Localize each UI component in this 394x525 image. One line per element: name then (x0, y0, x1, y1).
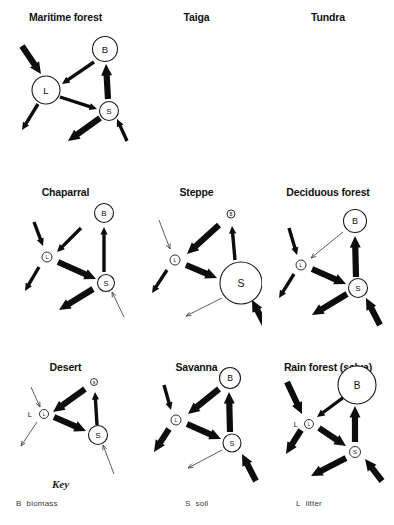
key-symbol-l: L (296, 499, 301, 508)
flow-soil_to_loss-thick (59, 286, 95, 310)
flow-litter_to_loss-medium (152, 269, 168, 293)
node-b-steppe[interactable]: B (227, 210, 235, 218)
flow-litter_to_soil-thick (317, 425, 346, 446)
node-s-chaparral[interactable]: S (98, 275, 115, 292)
flow-soil_to_biomass-medium (100, 227, 107, 272)
flow-litter_to_soil-thick (311, 266, 346, 284)
panel-diagram-tundra: BBLS (262, 0, 394, 175)
flow-soil_to_biomass-thick (350, 236, 361, 277)
flow-precip_to_litter-medium (32, 221, 43, 246)
node-label-b: B (93, 380, 96, 385)
flow-soil_to_loss-thick (312, 291, 349, 315)
node-label-b: B (352, 216, 358, 226)
flow-precip_to_litter-thin (159, 220, 170, 249)
flow-soil_to_biomass-medium (92, 392, 99, 425)
flow-arrows-deciduous-forest (279, 228, 383, 327)
panel-diagram-chaparral: BLS (0, 175, 131, 350)
biome-panel-maritime-forest[interactable]: Maritime forestBLS (0, 0, 131, 175)
node-outside-label-l: L (294, 420, 298, 429)
node-l-chaparral[interactable]: L (42, 252, 52, 262)
flow-biomass_to_litter-medium (62, 61, 95, 84)
flow-weathering_to_soil-medium (117, 119, 129, 142)
biome-panel-tundra[interactable]: TundraBBLS (262, 0, 394, 175)
flow-litter_to_loss-thick (286, 428, 304, 454)
node-s-maritime-forest[interactable]: S (100, 102, 119, 121)
node-label-s: S (229, 439, 234, 448)
node-b-deciduous-forest[interactable]: B (344, 210, 367, 233)
flow-soil_to_loss-thin (188, 450, 222, 468)
key-entry-soil: Ssoil (185, 499, 208, 508)
flow-soil_to_biomass-thick (224, 392, 235, 432)
node-l-maritime-forest[interactable]: L (32, 76, 60, 104)
node-label-b: B (354, 380, 361, 391)
node-b-rain-forest[interactable]: B (338, 366, 376, 404)
node-l-rain-forest[interactable]: LL (294, 420, 314, 429)
flow-soil_to_loss-thick (311, 455, 347, 476)
flow-litter_to_loss-medium (25, 266, 40, 291)
node-s-rain-forest[interactable]: S (350, 447, 361, 458)
node-label-l: L (300, 262, 303, 268)
flow-arrows-savanna (154, 385, 259, 483)
node-label-s: S (106, 107, 111, 116)
key-entry-biomass: Bbiomass (16, 499, 58, 508)
flow-soil_to_loss-thin (186, 298, 222, 316)
node-s-savanna[interactable]: S (223, 434, 241, 452)
flow-biomass_to_litter-thick (188, 387, 221, 414)
flow-arrows-chaparral (25, 221, 124, 317)
panel-diagram-maritime-forest: BLS (0, 0, 131, 175)
node-s-desert[interactable]: S (89, 426, 108, 445)
node-label-s: S (353, 449, 357, 455)
node-l-savanna[interactable]: L (171, 415, 181, 425)
flow-precip_to_litter-thick (19, 44, 41, 74)
node-label-l: L (175, 417, 178, 423)
node-outside-label-l: L (28, 410, 32, 419)
key-symbol-b: B (16, 499, 22, 508)
node-label-b: B (229, 212, 232, 217)
panel-diagram-taiga: BLS (131, 0, 262, 175)
node-b-maritime-forest[interactable]: B (93, 37, 118, 62)
biome-panel-steppe[interactable]: SteppeBLS (131, 175, 262, 350)
flow-biomass_to_litter-thick (53, 386, 87, 412)
node-b-chaparral[interactable]: B (95, 204, 114, 223)
node-label-l: L (46, 254, 49, 260)
node-label-s: S (95, 431, 100, 440)
key-entry-litter: Llitter (296, 499, 322, 508)
flow-precip_to_litter-medium (162, 385, 172, 410)
node-s-steppe[interactable]: S (220, 262, 262, 304)
flow-litter_to_soil-thick (57, 259, 96, 279)
key-heading: Key (52, 478, 69, 490)
flow-litter_to_loss-medium (22, 103, 39, 130)
flow-precip_to_litter-medium (287, 228, 298, 255)
node-l-desert[interactable]: LL (28, 410, 49, 419)
biome-panel-deciduous-forest[interactable]: Deciduous forestBLS (262, 175, 394, 350)
node-l-deciduous-forest[interactable]: L (296, 260, 306, 270)
flow-soil_to_biomass-medium (229, 226, 237, 260)
flow-litter_to_soil-thick (53, 414, 86, 431)
flow-biomass_to_litter-medium (317, 396, 345, 417)
node-label-l: L (43, 85, 48, 96)
node-b-savanna[interactable]: B (220, 368, 241, 389)
node-l-steppe[interactable]: L (170, 255, 180, 265)
biome-panel-grid: Maritime forestBLSTaigaBLSTundraBBLSChap… (0, 0, 394, 525)
panel-diagram-deciduous-forest: BLS (262, 175, 394, 350)
biome-panel-chaparral[interactable]: ChaparralBLS (0, 175, 131, 350)
key-label-litter: litter (306, 499, 322, 508)
node-label-b: B (102, 44, 108, 55)
node-s-deciduous-forest[interactable]: S (349, 279, 368, 298)
flow-biomass_to_litter-thick (187, 223, 221, 254)
nutrient-cycle-figure: Maritime forestBLSTaigaBLSTundraBBLSChap… (0, 0, 394, 525)
flow-litter_to_soil-thick (185, 262, 217, 278)
flow-precip_to_litter-thick (284, 381, 302, 414)
flow-soil_to_biomass-thick (350, 406, 361, 442)
biome-panel-taiga[interactable]: TaigaBLS (131, 0, 262, 175)
flow-litter_to_soil-medium (59, 95, 97, 110)
node-b-desert[interactable]: B (91, 379, 98, 386)
node-label-l: L (174, 257, 177, 263)
panel-diagram-steppe: BLS (131, 175, 262, 350)
flow-soil_to_biomass-thick (101, 64, 112, 99)
flow-soil_to_loss-thick (68, 115, 102, 141)
figure-key: Key Bbiomass Ssoil Llitter (0, 478, 394, 525)
flow-litter_to_loss-thick (154, 427, 172, 452)
flow-litter_to_soil-thick (186, 421, 221, 439)
node-label-b: B (101, 209, 106, 218)
